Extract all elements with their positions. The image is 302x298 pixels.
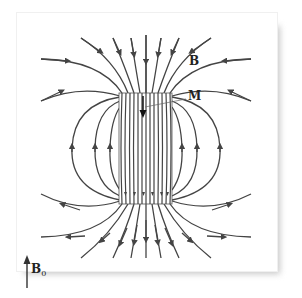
magnetized-cylinder bbox=[119, 93, 172, 204]
field-label: B bbox=[189, 54, 199, 68]
external-field-label: B0 bbox=[31, 262, 46, 278]
field-diagram bbox=[0, 0, 302, 298]
external-field-arrow bbox=[24, 255, 31, 288]
external-field-subscript: 0 bbox=[41, 269, 46, 278]
magnetization-label: M bbox=[188, 89, 201, 103]
external-field-symbol: B bbox=[31, 262, 41, 276]
